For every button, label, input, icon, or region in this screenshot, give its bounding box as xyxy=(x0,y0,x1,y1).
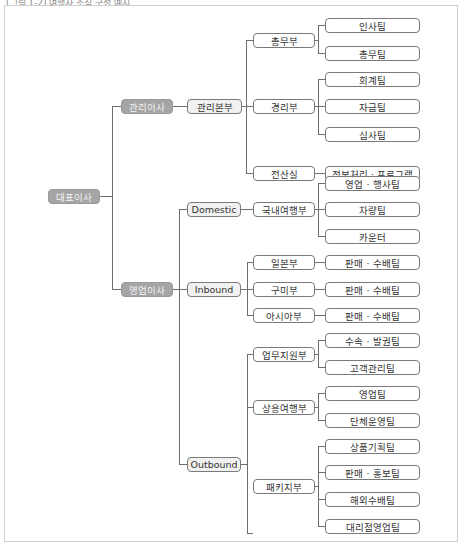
node-customer-team: 고객관리팀 xyxy=(325,360,420,375)
node-group-ops-team: 단체운영팀 xyxy=(325,413,420,428)
node-domestic: Domestic xyxy=(187,202,241,217)
connector xyxy=(112,106,121,107)
connector xyxy=(179,209,180,464)
connector xyxy=(246,40,253,41)
node-asia: 아시아부 xyxy=(253,308,315,323)
connector xyxy=(318,25,319,53)
connector xyxy=(247,533,253,534)
node-product-team: 상품기획팀 xyxy=(325,439,420,454)
node-package: 패키지부 xyxy=(253,479,315,494)
node-vehicle-team: 차량팀 xyxy=(325,202,420,217)
node-counter: 카운터 xyxy=(325,229,420,244)
connector xyxy=(112,106,113,289)
connector xyxy=(318,340,325,341)
node-asia-team: 판매 · 수배팀 xyxy=(325,308,420,323)
connector xyxy=(318,420,325,421)
connector xyxy=(247,354,248,533)
connector xyxy=(318,446,325,447)
connector xyxy=(318,446,319,526)
node-accounting: 경리부 xyxy=(253,99,315,114)
node-ceo: 대표이사 xyxy=(48,189,100,204)
node-sales-director: 영업이사 xyxy=(121,282,173,297)
node-inbound: Inbound xyxy=(187,282,241,297)
connector xyxy=(318,526,325,527)
node-hr-team: 인사팀 xyxy=(325,18,420,33)
connector xyxy=(318,499,325,500)
connector xyxy=(315,289,325,290)
connector xyxy=(100,196,112,197)
node-business-support: 업무지원부 xyxy=(253,347,315,362)
node-admin-director: 관리이사 xyxy=(121,99,173,114)
connector xyxy=(179,209,187,210)
node-domestic-travel: 국내여행부 xyxy=(253,202,315,217)
node-audit-team: 심사팀 xyxy=(325,127,420,142)
connector xyxy=(112,289,121,290)
connector xyxy=(318,209,325,210)
connector xyxy=(179,464,187,465)
node-sales-event-team: 영업 · 행사팀 xyxy=(325,176,420,191)
node-business-travel: 상용여행부 xyxy=(253,400,315,415)
connector xyxy=(318,393,319,420)
node-it-office: 전산실 xyxy=(253,166,315,181)
connector xyxy=(173,106,187,107)
connector xyxy=(318,472,325,473)
connector xyxy=(315,262,325,263)
node-acct-team: 회계팀 xyxy=(325,72,420,87)
connector xyxy=(318,25,325,26)
connector xyxy=(318,340,319,367)
node-japan-team: 판매 · 수배팀 xyxy=(325,255,420,270)
node-overseas-team: 해외수배팀 xyxy=(325,492,420,507)
node-promo-team: 판매 · 홍보팀 xyxy=(325,465,420,480)
connector xyxy=(318,393,325,394)
connector xyxy=(315,315,325,316)
node-am-eu-team: 판매 · 수배팀 xyxy=(325,282,420,297)
connector xyxy=(315,173,325,174)
node-outbound: Outbound xyxy=(187,457,241,472)
connector xyxy=(318,236,325,237)
node-agency-team: 대리점영업팀 xyxy=(325,519,420,534)
connector xyxy=(318,106,325,107)
node-general-affairs: 총무부 xyxy=(253,33,315,48)
node-ga-team: 총무팀 xyxy=(325,46,420,61)
connector xyxy=(318,367,325,368)
connector xyxy=(318,183,325,184)
node-admin-hq: 관리본부 xyxy=(187,99,242,114)
node-ticketing-team: 수속 · 발권팀 xyxy=(325,333,420,348)
connector xyxy=(318,79,325,80)
node-japan: 일본부 xyxy=(253,255,315,270)
connector xyxy=(246,106,253,107)
node-fund-team: 자금팀 xyxy=(325,99,420,114)
connector xyxy=(318,53,325,54)
connector xyxy=(241,209,253,210)
node-sales-team: 영업팀 xyxy=(325,386,420,401)
connector xyxy=(179,289,187,290)
node-americas-europe: 구미부 xyxy=(253,282,315,297)
connector xyxy=(246,173,253,174)
connector xyxy=(318,134,325,135)
